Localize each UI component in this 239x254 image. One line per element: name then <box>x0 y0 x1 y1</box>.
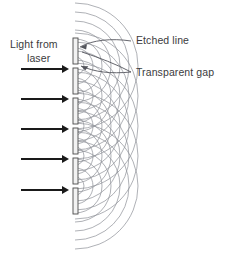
etched-line-segment <box>73 128 78 154</box>
label-light-from-laser-line2: laser <box>27 52 51 64</box>
etched-line-segment <box>73 188 78 214</box>
right-arrow-icon <box>62 125 69 133</box>
right-arrow-icon <box>62 65 69 73</box>
label-light-from-laser-line1: Light from <box>10 38 58 50</box>
right-arrow-icon <box>62 95 69 103</box>
etched-line-segment <box>73 158 78 184</box>
grating-barrier-group <box>73 38 78 214</box>
label-transparent-gap: Transparent gap <box>136 66 214 78</box>
etched-line-segment <box>73 38 78 64</box>
etched-line-segment <box>73 98 78 124</box>
etched-line-segment <box>73 68 78 94</box>
diffraction-grating-diagram: Light from laser Etched line Transparent… <box>0 0 239 254</box>
incident-beam-arrows-group <box>21 65 69 194</box>
right-arrow-icon <box>62 155 69 163</box>
right-arrow-icon <box>62 186 69 194</box>
label-etched-line: Etched line <box>136 34 189 46</box>
diagram-canvas: Light from laser Etched line Transparent… <box>0 0 239 254</box>
